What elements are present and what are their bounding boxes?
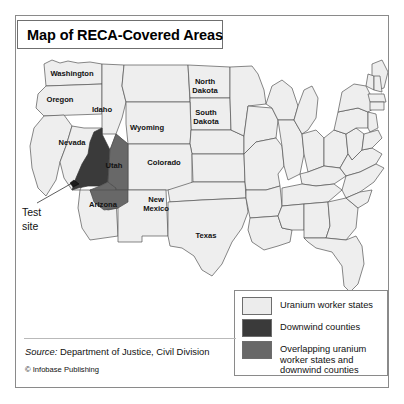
state-vermont xyxy=(366,74,374,90)
state-mississippi xyxy=(278,204,304,230)
state-indiana xyxy=(302,130,324,172)
state-colorado xyxy=(128,144,192,190)
legend-swatch-uranium-worker-states xyxy=(242,297,272,315)
figure-container: Map of RECA-Covered Areas xyxy=(15,15,389,388)
source-label: Source: xyxy=(25,346,57,357)
test-site-callout-line1: Test xyxy=(22,206,41,218)
state-kansas xyxy=(192,154,245,182)
state-label-wyoming: Wyoming xyxy=(130,123,164,132)
state-label-south-dakota: SouthDakota xyxy=(193,108,219,126)
state-montana xyxy=(122,65,190,102)
us-map-svg: Washington Oregon Idaho Wyoming NorthDak… xyxy=(16,50,388,315)
legend-swatch-overlapping xyxy=(242,341,272,359)
state-label-colorado: Colorado xyxy=(147,158,181,167)
legend-label-uranium-worker-states: Uranium worker states xyxy=(280,297,373,311)
legend-label-downwind-counties: Downwind counties xyxy=(280,319,360,333)
state-label-washington: Washington xyxy=(50,69,94,78)
state-label-utah: Utah xyxy=(106,161,123,170)
legend-label-overlapping: Overlapping uranium worker states and do… xyxy=(280,341,381,376)
state-label-nevada: Nevada xyxy=(58,138,86,147)
state-label-oregon: Oregon xyxy=(46,95,73,104)
state-connecticut-ri xyxy=(370,102,384,110)
state-alabama xyxy=(304,202,330,238)
state-idaho xyxy=(102,64,126,134)
state-massachusetts xyxy=(368,94,386,102)
test-site-callout-line2: site xyxy=(22,220,39,232)
figure-title-box: Map of RECA-Covered Areas xyxy=(17,20,223,49)
state-kentucky xyxy=(300,166,346,186)
state-nebraska xyxy=(190,130,244,154)
state-label-idaho: Idaho xyxy=(92,105,113,114)
footer-divider xyxy=(24,338,236,339)
source-line: Source: Department of Justice, Civil Div… xyxy=(25,346,209,357)
legend-item-uranium-worker-states: Uranium worker states xyxy=(242,297,381,315)
state-arkansas xyxy=(246,186,282,218)
state-label-texas: Texas xyxy=(196,231,217,240)
map-legend: Uranium worker states Downwind counties … xyxy=(234,290,388,376)
legend-item-overlapping: Overlapping uranium worker states and do… xyxy=(242,341,381,376)
map-container: Washington Oregon Idaho Wyoming NorthDak… xyxy=(16,50,388,315)
state-maryland-delaware xyxy=(362,130,382,150)
legend-swatch-downwind-counties xyxy=(242,319,272,337)
source-value: Department of Justice, Civil Division xyxy=(57,346,209,357)
state-michigan xyxy=(294,86,318,134)
legend-item-downwind-counties: Downwind counties xyxy=(242,319,381,337)
page-title: Map of RECA-Covered Areas xyxy=(27,27,223,43)
copyright-line: © Infobase Publishing xyxy=(25,365,99,374)
state-florida xyxy=(304,236,364,292)
state-label-north-dakota: NorthDakota xyxy=(192,77,218,95)
state-label-arizona: Arizona xyxy=(89,200,118,209)
state-new-jersey xyxy=(368,112,378,132)
